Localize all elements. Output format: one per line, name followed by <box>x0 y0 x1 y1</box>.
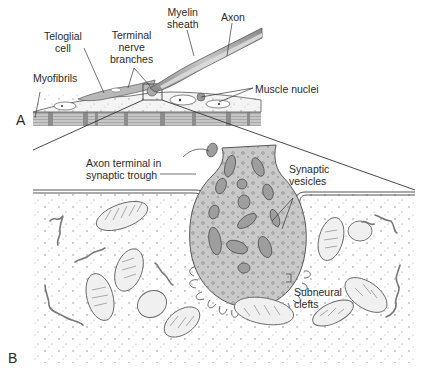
myelin-sheath-label: Myelin sheath <box>167 6 199 30</box>
panel-letter-b: B <box>8 350 17 366</box>
synaptic-vesicles-line2: vesicles <box>289 175 329 187</box>
neuromuscular-junction-figure: Teloglial cell Terminal nerve branches M… <box>0 0 427 371</box>
teloglial-cell-label-line2: cell <box>44 42 82 54</box>
axon-label: Axon <box>221 11 245 23</box>
terminal-nerve-branches-label: Terminal nerve branches <box>110 29 153 65</box>
axon-terminal-label: Axon terminal in synaptic trough <box>86 157 161 181</box>
subneural-clefts-label: Subneural clefts <box>294 286 342 310</box>
axon-terminal-line1: Axon terminal in <box>86 157 161 169</box>
terminal-nerve-branches-line1: Terminal <box>110 29 153 41</box>
synaptic-vesicles-line1: Synaptic <box>289 163 329 175</box>
myelin-sheath-line2: sheath <box>167 18 199 30</box>
muscle-nuclei-label: Muscle nuclei <box>255 83 319 95</box>
subneural-clefts-line1: Subneural <box>294 286 342 298</box>
diagram-artwork <box>0 0 427 371</box>
myofibrils-label: Myofibrils <box>33 72 77 84</box>
myelin-sheath-line1: Myelin <box>167 6 199 18</box>
axon-terminal-line2: synaptic trough <box>86 169 161 181</box>
teloglial-cell-label: Teloglial cell <box>44 30 82 54</box>
synaptic-vesicles-label: Synaptic vesicles <box>289 163 329 187</box>
terminal-nerve-branches-line2: nerve <box>110 41 153 53</box>
teloglial-cell-label-line1: Teloglial <box>44 30 82 42</box>
panel-letter-a: A <box>16 112 25 128</box>
subneural-clefts-line2: clefts <box>294 298 342 310</box>
terminal-nerve-branches-line3: branches <box>110 53 153 65</box>
